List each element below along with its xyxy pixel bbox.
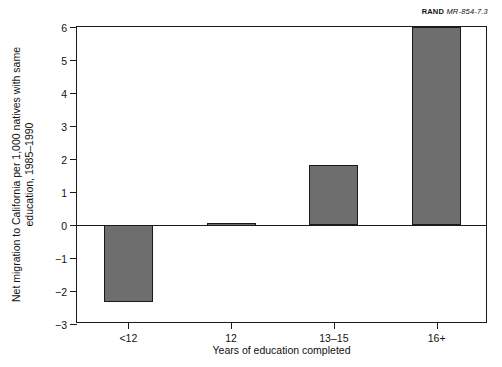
source-credit: RAND MR-854-7.3 [422, 7, 488, 16]
source-credit-organization: RAND [422, 7, 444, 16]
y-axis-tick-label: 4 [61, 88, 67, 100]
x-axis-title: Years of education completed [76, 344, 487, 356]
y-axis-tick-label: −3 [55, 319, 67, 331]
y-axis-title: Net migration to California per 1,000 na… [6, 26, 40, 323]
y-axis-tick: −3 [70, 324, 77, 325]
x-axis-tick [128, 322, 129, 329]
y-axis-tick: 5 [70, 60, 77, 61]
y-axis-tick-label: 3 [61, 121, 67, 133]
bar [412, 27, 461, 225]
x-axis-tick-label: 16+ [428, 332, 446, 344]
y-axis-tick-label: 1 [61, 187, 67, 199]
y-axis-tick-label: 0 [61, 220, 67, 232]
y-axis-tick-label: 5 [61, 55, 67, 67]
bar [309, 165, 358, 225]
y-axis-tick: −1 [70, 258, 77, 259]
chart-plot-area: 6543210−1−2−3 <121213–1516+ [76, 26, 487, 323]
y-axis-tick-label: 6 [61, 22, 67, 34]
bar [207, 223, 256, 226]
y-axis-tick: 4 [70, 93, 77, 94]
y-axis-tick: −2 [70, 291, 77, 292]
y-axis-tick-label: 2 [61, 154, 67, 166]
source-credit-document: MR-854-7.3 [446, 7, 488, 16]
x-axis-tick [334, 322, 335, 329]
y-axis-tick-label: −2 [55, 286, 67, 298]
x-axis-tick-label: 12 [225, 332, 237, 344]
bar [104, 225, 153, 302]
x-axis-tick-label: 13–15 [319, 332, 348, 344]
x-axis-tick-label: <12 [119, 332, 137, 344]
y-axis-tick: 2 [70, 159, 77, 160]
y-axis-tick: 0 [70, 225, 77, 226]
y-axis-tick: 6 [70, 27, 77, 28]
y-axis-tick: 3 [70, 126, 77, 127]
y-axis-tick-label: −1 [55, 253, 67, 265]
x-axis-tick [437, 322, 438, 329]
x-axis-tick [231, 322, 232, 329]
y-axis-tick: 1 [70, 192, 77, 193]
